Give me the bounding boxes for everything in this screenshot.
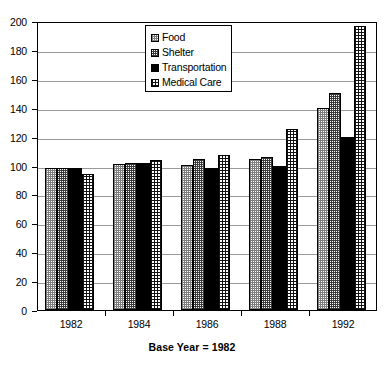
y-tick-label: 100 [10,162,27,172]
legend-item-food: Food [151,30,227,45]
y-tick-label: 160 [10,75,27,85]
y-tick-label: 40 [16,248,27,258]
bar [354,26,366,310]
bar [69,168,81,310]
bar [205,168,217,310]
x-tick-label: 1984 [105,319,173,330]
y-tick-mark [32,282,37,283]
legend-swatch-icon [151,64,159,72]
y-axis: 200180160140120100806040200 [0,0,33,368]
y-tick-mark [32,253,37,254]
y-tick-label: 200 [10,17,27,27]
bar [218,155,230,310]
x-tick-mark [241,311,242,316]
y-tick-mark [32,109,37,110]
y-tick-label: 20 [16,277,27,287]
y-tick-label: 140 [10,104,27,114]
x-axis-title: Base Year = 1982 [0,341,384,353]
bar [329,93,341,310]
bar [273,166,285,311]
y-tick-label: 0 [21,306,27,316]
legend-item-transportation: Transportation [151,60,227,75]
bar [137,163,149,310]
y-tick-label: 180 [10,46,27,56]
x-tick-label: 1986 [173,319,241,330]
x-tick-label: 1982 [37,319,105,330]
legend-item-shelter: Shelter [151,45,227,60]
chart-legend: FoodShelterTransportationMedical Care [145,25,232,92]
legend-swatch-icon [151,34,159,42]
y-tick-label: 60 [16,219,27,229]
y-tick-mark [32,311,37,312]
y-tick-mark [32,167,37,168]
bar [113,164,125,310]
y-tick-mark [32,22,37,23]
bar [125,163,137,310]
y-tick-label: 80 [16,190,27,200]
y-tick-mark [32,51,37,52]
x-tick-mark [105,311,106,316]
legend-item-label: Medical Care [162,77,221,88]
bar [193,159,205,310]
legend-item-medical-care: Medical Care [151,75,227,90]
y-tick-mark [32,80,37,81]
bar [249,159,261,310]
y-tick-mark [32,138,37,139]
legend-swatch-icon [151,49,159,57]
y-tick-mark [32,195,37,196]
bar-chart: 200180160140120100806040200 Base Year = … [0,0,384,368]
legend-item-label: Shelter [162,47,194,58]
bar [150,160,162,310]
bar [286,129,298,310]
x-tick-label: 1992 [309,319,377,330]
legend-swatch-icon [151,79,159,87]
bar [45,168,57,310]
legend-item-label: Food [162,32,185,43]
y-tick-mark [32,224,37,225]
bar [82,174,94,310]
y-tick-label: 120 [10,133,27,143]
bar [261,157,273,310]
bar [341,137,353,310]
bar [57,168,69,310]
x-tick-mark [309,311,310,316]
legend-item-label: Transportation [162,62,227,73]
x-tick-label: 1988 [241,319,309,330]
bar [317,108,329,310]
x-tick-mark [173,311,174,316]
bar [181,165,193,310]
